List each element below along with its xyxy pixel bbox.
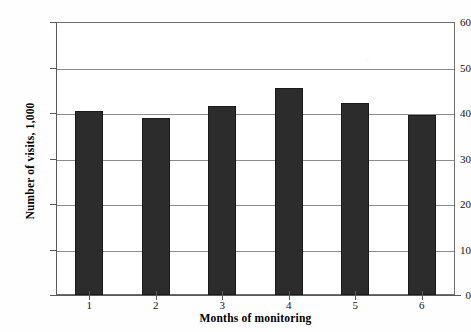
y-tick-mark: [50, 22, 57, 23]
y-tick-mark: [50, 159, 57, 160]
bar: [208, 106, 236, 295]
y-tick-mark: [50, 295, 57, 296]
y-tick-label: 60: [427, 16, 471, 28]
bar: [341, 103, 369, 295]
x-axis-line: [50, 295, 461, 296]
bar-series: [56, 22, 455, 295]
x-axis-title: Months of monitoring: [56, 312, 455, 324]
y-tick-mark: [50, 113, 57, 114]
x-tick-label: 3: [202, 299, 242, 311]
y-tick-mark: [50, 250, 57, 251]
y-tick-label: 40: [427, 107, 471, 119]
y-axis-title: Number of visits, 1,000: [24, 71, 36, 251]
bar: [75, 111, 103, 295]
x-tick-label: 2: [136, 299, 176, 311]
bar: [275, 88, 303, 295]
y-tick-label: 20: [427, 198, 471, 210]
y-tick-label: 50: [427, 62, 471, 74]
y-tick-mark: [50, 204, 57, 205]
x-tick-label: 1: [69, 299, 109, 311]
x-tick-label: 5: [335, 299, 375, 311]
bar: [142, 118, 170, 295]
x-tick-label: 4: [269, 299, 309, 311]
y-tick-label: 10: [427, 244, 471, 256]
bar-chart: 0102030405060 123456 Number of visits, 1…: [0, 0, 471, 332]
x-tick-label: 6: [402, 299, 442, 311]
y-tick-label: 30: [427, 153, 471, 165]
y-tick-mark: [50, 68, 57, 69]
y-axis-title-wrap: Number of visits, 1,000: [0, 80, 26, 250]
